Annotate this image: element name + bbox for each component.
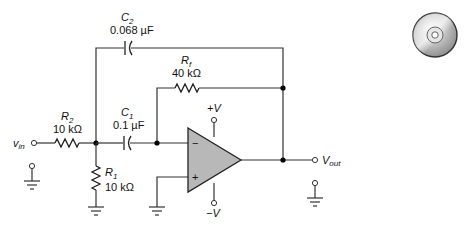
ground-icon — [24, 181, 40, 189]
vout-terminal — [312, 157, 317, 162]
r1-label: R1 — [105, 166, 117, 181]
c1-junction — [154, 140, 159, 145]
rf-resistor — [175, 84, 199, 92]
r1-value: 10 kΩ — [105, 181, 134, 193]
vin-terminal — [31, 140, 36, 145]
c2-value: 0.068 µF — [110, 24, 154, 36]
ground-icon — [88, 207, 104, 215]
plus-v-label: +V — [207, 102, 222, 114]
output-junction — [280, 157, 285, 162]
c1-branch: C1 0.1 µF — [96, 106, 188, 150]
op-amp: +V −V − + — [188, 102, 241, 219]
rf-value: 40 kΩ — [172, 67, 201, 79]
ground-icon — [149, 207, 165, 215]
r2-resistor — [55, 139, 79, 147]
output-ground-reference — [307, 180, 323, 206]
input-branch: vin R2 10 kΩ — [13, 110, 99, 151]
c1-value: 0.1 µF — [113, 119, 145, 131]
ground-terminal — [312, 180, 317, 185]
cd-disc-icon — [413, 13, 457, 57]
r1-resistor — [92, 166, 100, 190]
vout-label: Vout — [322, 154, 341, 168]
minus-v-label: −V — [206, 207, 221, 219]
plus-input-ground — [149, 177, 188, 215]
noninverting-input-label: + — [192, 171, 198, 183]
rf-junction — [280, 85, 285, 90]
circuit-diagram: C2 0.068 µF Rf 40 kΩ vin R2 10 kΩ C1 0.1… — [0, 0, 475, 232]
output-branch: Vout — [241, 154, 341, 168]
r1-branch: R1 10 kΩ — [88, 143, 134, 215]
vin-label: vin — [13, 137, 25, 151]
inverting-input-label: − — [192, 137, 198, 149]
input-ground-reference — [24, 163, 40, 189]
minus-v-terminal — [211, 200, 216, 205]
rf-branch: Rf 40 kΩ — [157, 54, 286, 143]
ground-icon — [307, 198, 323, 206]
r2-value: 10 kΩ — [53, 123, 82, 135]
plus-v-terminal — [211, 117, 216, 122]
ground-terminal — [29, 163, 34, 168]
